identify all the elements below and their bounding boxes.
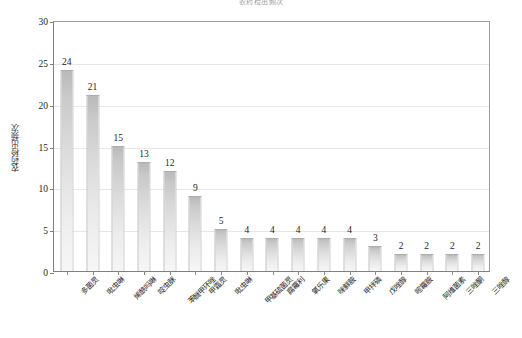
bar-slot[interactable]: 4	[311, 22, 337, 271]
bar-value-label: 4	[244, 225, 249, 235]
x-tick-label: 吡虫啉	[232, 274, 254, 296]
bar-value-label: 3	[373, 233, 378, 243]
bar[interactable]	[369, 246, 382, 271]
bar-slot[interactable]: 2	[440, 22, 466, 271]
bar[interactable]	[163, 171, 176, 271]
bar-value-label: 4	[322, 225, 327, 235]
bar-chart: 农药检出频次 农药检出频次 051015202530 2421151312954…	[0, 0, 522, 338]
bar[interactable]	[446, 254, 459, 271]
bar[interactable]	[420, 254, 433, 271]
x-tick-label: 甲拌磷	[361, 274, 383, 296]
bars-layer: 2421151312954444432222	[54, 22, 489, 271]
bar[interactable]	[215, 229, 228, 271]
x-axis-labels: 多菌灵吡虫啉烯酰吗啉啶虫脒苯醚甲环唑甲霜灵吡虫啉甲基硫菌灵腐霉利氧乐果咪鲜胺甲拌…	[53, 274, 490, 338]
bar[interactable]	[137, 162, 150, 271]
bar[interactable]	[343, 238, 356, 271]
x-tick-label: 氧乐果	[309, 274, 331, 296]
bar[interactable]	[60, 70, 73, 271]
bar[interactable]	[112, 146, 125, 272]
x-tick-label: 三唑醇	[489, 274, 511, 296]
bar-value-label: 5	[219, 216, 224, 226]
x-tick-label: 多菌灵	[78, 274, 100, 296]
plot-area: 051015202530 2421151312954444432222	[53, 21, 490, 272]
bar-slot[interactable]: 4	[260, 22, 286, 271]
chart-title: 农药检出频次	[0, 0, 522, 8]
bar-value-label: 4	[296, 225, 301, 235]
y-axis-title: 农药检出频次	[10, 98, 24, 198]
bar[interactable]	[292, 238, 305, 271]
x-tick-label: 啶虫脒	[155, 274, 177, 296]
bar-slot[interactable]: 2	[414, 22, 440, 271]
bar[interactable]	[240, 238, 253, 271]
bar-slot[interactable]: 4	[337, 22, 363, 271]
y-tick-label: 20	[39, 101, 49, 111]
bar-slot[interactable]: 12	[157, 22, 183, 271]
bar[interactable]	[472, 254, 485, 271]
bar-value-label: 2	[476, 241, 481, 251]
bar[interactable]	[189, 196, 202, 271]
bar-slot[interactable]: 15	[105, 22, 131, 271]
bar[interactable]	[317, 238, 330, 271]
x-tick-label: 咪鲜胺	[335, 274, 357, 296]
bar-value-label: 4	[270, 225, 275, 235]
bar-value-label: 12	[165, 158, 175, 168]
bar-value-label: 2	[399, 241, 404, 251]
bar-slot[interactable]: 3	[362, 22, 388, 271]
bar[interactable]	[266, 238, 279, 271]
bar-slot[interactable]: 13	[131, 22, 157, 271]
bar-slot[interactable]: 9	[183, 22, 209, 271]
bar-value-label: 24	[62, 57, 72, 67]
y-tick-label: 25	[39, 59, 49, 69]
y-tick-label: 0	[43, 268, 48, 278]
bar-value-label: 15	[114, 133, 124, 143]
bar-value-label: 13	[139, 149, 149, 159]
bar[interactable]	[86, 95, 99, 271]
bar-value-label: 9	[193, 183, 198, 193]
bar[interactable]	[395, 254, 408, 271]
bar-value-label: 4	[347, 225, 352, 235]
bar-value-label: 21	[88, 82, 98, 92]
bar-slot[interactable]: 2	[388, 22, 414, 271]
x-tick-label: 三唑酮	[463, 274, 485, 296]
bar-slot[interactable]: 4	[234, 22, 260, 271]
x-tick-label: 吡虫啉	[104, 274, 126, 296]
x-tick-label: 戊唑醇	[386, 274, 408, 296]
bar-slot[interactable]: 24	[54, 22, 80, 271]
bar-slot[interactable]: 21	[80, 22, 106, 271]
bar-slot[interactable]: 5	[208, 22, 234, 271]
bar-slot[interactable]: 2	[465, 22, 491, 271]
bar-slot[interactable]: 4	[285, 22, 311, 271]
x-tick-label: 嘧霉胺	[412, 274, 434, 296]
bar-value-label: 2	[424, 241, 429, 251]
y-tick-label: 5	[43, 226, 48, 236]
y-tick-label: 10	[39, 184, 49, 194]
y-tick-label: 30	[39, 17, 49, 27]
y-tick-label: 15	[39, 143, 49, 153]
bar-value-label: 2	[450, 241, 455, 251]
